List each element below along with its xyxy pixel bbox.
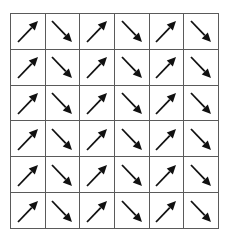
arrow-up-right-icon	[13, 196, 43, 226]
arrow-down-right-icon	[117, 196, 147, 226]
grid-cell	[80, 121, 115, 157]
grid-cell	[184, 121, 219, 157]
grid-cell	[150, 193, 185, 229]
arrow-up-right-icon	[151, 16, 181, 46]
arrow-down-right-icon	[186, 88, 216, 118]
arrow-down-right-icon	[47, 196, 77, 226]
arrow-down-right-icon	[47, 124, 77, 154]
arrow-down-right-icon	[186, 196, 216, 226]
arrow-down-right-icon	[117, 88, 147, 118]
grid-cell	[184, 193, 219, 229]
grid-cell	[80, 50, 115, 86]
arrow-up-right-icon	[13, 160, 43, 190]
grid-cell	[184, 50, 219, 86]
grid-cell	[11, 50, 46, 86]
arrow-down-right-icon	[117, 160, 147, 190]
arrow-up-right-icon	[13, 16, 43, 46]
arrow-up-right-icon	[151, 88, 181, 118]
grid-cell	[150, 121, 185, 157]
grid-cell	[150, 86, 185, 122]
grid-cell	[115, 193, 150, 229]
grid-cell	[80, 14, 115, 50]
grid-cell	[150, 157, 185, 193]
grid-cell	[11, 121, 46, 157]
grid-cell	[46, 157, 81, 193]
arrow-up-right-icon	[13, 52, 43, 82]
arrow-up-right-icon	[82, 160, 112, 190]
arrow-down-right-icon	[117, 124, 147, 154]
arrow-down-right-icon	[47, 88, 77, 118]
arrow-up-right-icon	[82, 196, 112, 226]
arrow-up-right-icon	[151, 124, 181, 154]
arrow-down-right-icon	[117, 52, 147, 82]
arrow-down-right-icon	[186, 16, 216, 46]
grid-cell	[46, 121, 81, 157]
grid-cell	[115, 14, 150, 50]
grid-cell	[11, 14, 46, 50]
arrow-down-right-icon	[47, 16, 77, 46]
grid-cell	[150, 50, 185, 86]
grid-cell	[115, 121, 150, 157]
grid-cell	[184, 86, 219, 122]
grid-cell	[115, 50, 150, 86]
arrow-up-right-icon	[151, 160, 181, 190]
arrow-down-right-icon	[186, 52, 216, 82]
arrow-up-right-icon	[82, 52, 112, 82]
grid-cell	[80, 86, 115, 122]
grid-cell	[46, 50, 81, 86]
arrow-down-right-icon	[186, 124, 216, 154]
grid-cell	[11, 86, 46, 122]
grid-cell	[46, 14, 81, 50]
arrow-up-right-icon	[13, 124, 43, 154]
arrow-down-right-icon	[47, 52, 77, 82]
arrow-up-right-icon	[82, 16, 112, 46]
grid-cell	[80, 157, 115, 193]
grid-cell	[150, 14, 185, 50]
grid-cell	[11, 157, 46, 193]
grid-cell	[115, 86, 150, 122]
arrow-grid	[10, 13, 219, 229]
arrow-up-right-icon	[13, 88, 43, 118]
grid-cell	[184, 157, 219, 193]
grid-cell	[80, 193, 115, 229]
grid-cell	[46, 193, 81, 229]
arrow-down-right-icon	[186, 160, 216, 190]
grid-cell	[184, 14, 219, 50]
arrow-up-right-icon	[151, 52, 181, 82]
grid-cell	[115, 157, 150, 193]
arrow-down-right-icon	[47, 160, 77, 190]
arrow-down-right-icon	[117, 16, 147, 46]
arrow-up-right-icon	[82, 124, 112, 154]
grid-cell	[46, 86, 81, 122]
arrow-up-right-icon	[151, 196, 181, 226]
arrow-up-right-icon	[82, 88, 112, 118]
grid-cell	[11, 193, 46, 229]
